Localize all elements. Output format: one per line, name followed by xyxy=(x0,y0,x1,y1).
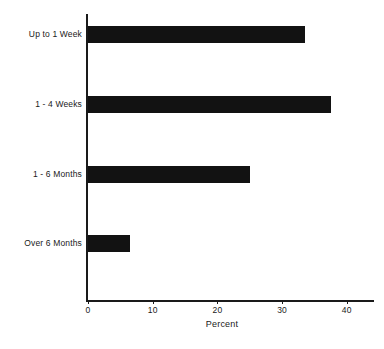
bar-chart: Up to 1 Week 1 - 4 Weeks 1 - 6 Months Ov… xyxy=(0,0,384,349)
bar-1-4-weeks xyxy=(88,96,331,113)
category-label-up-to-1-week: Up to 1 Week xyxy=(0,29,82,39)
x-axis-line xyxy=(86,300,374,302)
x-tick-0 xyxy=(88,300,89,304)
bar-up-to-1-week xyxy=(88,26,305,43)
category-label-1-6-months: 1 - 6 Months xyxy=(0,169,82,179)
x-axis-title: Percent xyxy=(0,319,384,329)
category-label-1-4-weeks: 1 - 4 Weeks xyxy=(0,99,82,109)
bar-1-6-months xyxy=(88,166,250,183)
x-tick-40 xyxy=(347,300,348,304)
x-tick-30 xyxy=(282,300,283,304)
x-tick-label-30: 30 xyxy=(262,305,302,316)
x-tick-label-40: 40 xyxy=(327,305,367,316)
x-tick-label-10: 10 xyxy=(133,305,173,316)
x-axis-title-text: Percent xyxy=(206,319,238,329)
bar-over-6-months xyxy=(88,235,130,252)
category-label-over-6-months: Over 6 Months xyxy=(0,238,82,248)
y-axis-line xyxy=(86,14,88,302)
x-tick-10 xyxy=(153,300,154,304)
x-tick-label-0: 0 xyxy=(68,305,108,316)
x-tick-20 xyxy=(217,300,218,304)
x-tick-label-20: 20 xyxy=(197,305,237,316)
